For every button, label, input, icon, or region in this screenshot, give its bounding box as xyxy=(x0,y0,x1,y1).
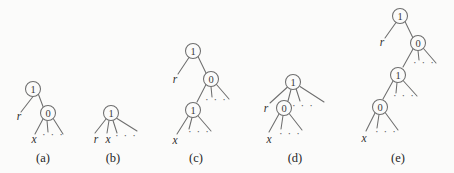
edge-e-5 xyxy=(383,81,393,99)
dots-b: · · · xyxy=(115,129,137,141)
edge-e-1 xyxy=(405,22,413,39)
edge-c-5 xyxy=(177,117,188,135)
edge-d-1 xyxy=(288,90,291,102)
edge-b-1 xyxy=(107,121,109,134)
dots-c-mid: · · · xyxy=(205,93,227,105)
node-c-mid-label: 0 xyxy=(208,74,213,85)
subfigure-b: 1rx· · ·(b) xyxy=(94,106,137,166)
dots-d-root: · · · xyxy=(292,99,314,111)
dots-d-child: · · · xyxy=(279,127,301,139)
subfigure-d: 10rx· · ·· · ·(d) xyxy=(264,75,324,166)
dots-c-low: · · · xyxy=(188,125,210,137)
leaf-a-x: x xyxy=(30,133,37,145)
edge-a-0 xyxy=(21,97,33,113)
node-c-root-label: 1 xyxy=(190,46,195,57)
edge-e-0 xyxy=(385,23,396,39)
node-e-l3-label: 1 xyxy=(395,70,400,81)
edge-c-1 xyxy=(198,57,206,74)
caption-c: (c) xyxy=(189,151,203,165)
dots-a: · · · xyxy=(42,128,64,140)
subfigure-e: 1010rx· · ·· · ·· · ·(e) xyxy=(360,9,436,166)
caption-e: (e) xyxy=(391,151,405,165)
node-a-child-label: 0 xyxy=(45,108,50,119)
caption-b: (b) xyxy=(106,151,121,165)
caption-a: (a) xyxy=(36,151,50,165)
caption-d: (d) xyxy=(288,151,303,165)
node-c-low-label: 1 xyxy=(190,105,195,116)
leaf-c-r: r xyxy=(173,73,178,85)
node-e-l2-label: 0 xyxy=(415,38,420,49)
node-d-child-label: 0 xyxy=(281,103,286,114)
tree-diagram-svg: 10rx· · ·(a)1rx· · ·(b)101rx· · ·· · ·(c… xyxy=(0,0,454,173)
leaf-c-x: x xyxy=(171,134,178,146)
node-d-root-label: 1 xyxy=(290,77,295,88)
dots-e-l3: · · · xyxy=(393,89,415,101)
node-e-root-label: 1 xyxy=(397,11,402,22)
node-b-root-label: 1 xyxy=(108,108,113,119)
leaf-a-r: r xyxy=(17,110,22,122)
figure-container: 10rx· · ·(a)1rx· · ·(b)101rx· · ·· · ·(c… xyxy=(0,0,454,173)
edge-e-2 xyxy=(403,49,413,67)
node-e-l4-label: 0 xyxy=(377,102,382,113)
node-a-root-label: 1 xyxy=(30,84,35,95)
edge-a-1 xyxy=(39,95,44,107)
edge-d-4 xyxy=(269,114,279,132)
dots-e-l2: · · · xyxy=(413,56,435,68)
leaf-e-x: x xyxy=(360,132,367,144)
leaf-e-r: r xyxy=(380,36,385,48)
subfigure-a: 10rx· · ·(a) xyxy=(17,82,64,166)
subfigure-c: 101rx· · ·· · ·(c) xyxy=(171,44,229,166)
leaf-d-r: r xyxy=(264,102,269,114)
leaf-d-x: x xyxy=(265,133,272,145)
leaf-b-x: x xyxy=(104,133,111,145)
edge-c-0 xyxy=(178,58,189,75)
leaf-b-r: r xyxy=(94,133,99,145)
edge-e-8 xyxy=(366,113,375,131)
dots-e-l4: · · · xyxy=(375,125,397,137)
edge-b-0 xyxy=(95,119,106,133)
